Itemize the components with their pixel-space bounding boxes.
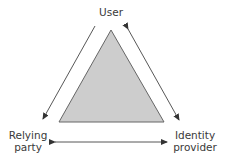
user-label: User <box>91 6 131 18</box>
relying-party-line1: Relying <box>5 129 51 141</box>
central-triangle <box>59 30 164 122</box>
relying-party-line2: party <box>5 141 51 153</box>
identity-provider-line2: provider <box>170 141 220 153</box>
identity-provider-line1: Identity <box>170 129 220 141</box>
relying-party-label: Relying party <box>5 129 51 153</box>
identity-provider-label: Identity provider <box>170 129 220 153</box>
identity-triangle-diagram: User Relying party Identity provider <box>0 0 226 164</box>
